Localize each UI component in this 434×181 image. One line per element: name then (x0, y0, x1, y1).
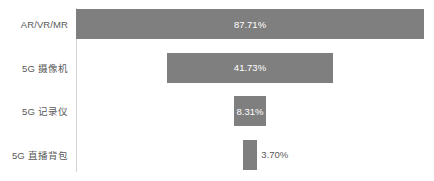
category-label-2: 5G 摄像机 (0, 53, 68, 83)
horizontal-bar-chart: AR/VR/MR87.71%5G 摄像机41.73%5G 记录仪8.31%5G … (0, 0, 434, 181)
category-label-3: 5G 记录仪 (0, 96, 68, 126)
bar-row: 5G 记录仪8.31% (0, 96, 434, 126)
category-label-4: 5G 直播背包 (0, 140, 68, 170)
bar-row: 5G 摄像机41.73% (0, 53, 434, 83)
bar-value-label-4: 3.70% (261, 140, 288, 170)
category-label-1: AR/VR/MR (0, 9, 68, 39)
bar-3[interactable] (234, 96, 267, 126)
bar-row: AR/VR/MR87.71% (0, 9, 434, 39)
bar-1[interactable] (76, 9, 424, 39)
bar-row: 5G 直播背包3.70% (0, 140, 434, 170)
bar-2[interactable] (167, 53, 333, 83)
bar-4[interactable] (243, 140, 258, 170)
